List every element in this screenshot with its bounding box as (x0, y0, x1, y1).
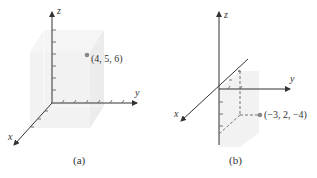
x-label-b: x (173, 108, 179, 119)
z-label-a: z (56, 5, 61, 16)
box-b (219, 71, 259, 147)
panel-b: z y x (−3, 2, −4) (b) (173, 9, 307, 167)
x-label-a: x (7, 131, 13, 142)
y-label-b: y (289, 73, 295, 84)
panel-a: z y x (4, 5, 6) (a) (7, 5, 140, 167)
point-a (85, 53, 90, 58)
box-a (30, 30, 104, 128)
point-label-b: (−3, 2, −4) (264, 109, 307, 121)
point-label-a: (4, 5, 6) (91, 53, 123, 65)
point-b (258, 113, 263, 118)
figure-canvas: z y x (4, 5, 6) (a) (0, 0, 317, 178)
caption-b: (b) (229, 154, 242, 167)
caption-a: (a) (73, 154, 86, 167)
y-label-a: y (134, 87, 140, 98)
z-label-b: z (223, 9, 228, 20)
